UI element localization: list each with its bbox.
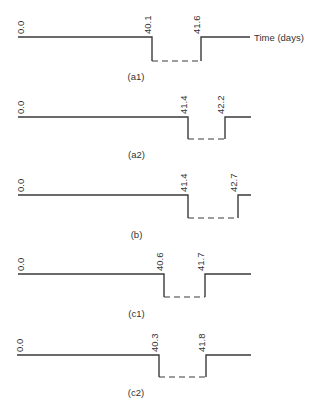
panel-c2: 0.040.341.8(c2) [14, 334, 251, 399]
drop-time-label: 41.4 [178, 174, 189, 193]
baseline-left-segment [18, 195, 188, 218]
panel-c1: 0.040.641.7(c1) [15, 253, 251, 320]
baseline-left-segment [18, 274, 164, 297]
baseline-left-segment [18, 117, 188, 139]
drop-time-label: 40.1 [142, 16, 153, 35]
panel-caption: (a1) [128, 71, 145, 82]
start-time-label: 0.0 [15, 179, 26, 192]
baseline-left-segment [18, 37, 152, 61]
panel-caption: (b) [131, 229, 143, 240]
baseline-right-segment [201, 37, 250, 61]
drop-time-label: 40.6 [154, 253, 165, 272]
panel-b: 0.041.442.7(b) [15, 174, 251, 241]
panel-caption: (a2) [128, 149, 145, 160]
panel-a2: 0.041.442.2(a2) [15, 96, 251, 161]
rise-time-label: 41.7 [195, 253, 206, 272]
baseline-right-segment [225, 117, 251, 139]
start-time-label: 0.0 [15, 258, 26, 271]
baseline-right-segment [206, 355, 251, 377]
rise-time-label: 42.2 [215, 96, 226, 115]
panel-caption: (c1) [128, 308, 144, 319]
rise-time-label: 41.8 [196, 334, 207, 353]
drop-time-label: 41.4 [178, 96, 189, 115]
panel-caption: (c2) [128, 387, 144, 398]
start-time-label: 0.0 [14, 339, 25, 352]
panel-a1: 0.040.141.6(a1)Time (days) [15, 16, 304, 83]
start-time-label: 0.0 [15, 101, 26, 114]
timeline-diagram: 0.040.141.6(a1)Time (days)0.041.442.2(a2… [0, 0, 321, 412]
baseline-right-segment [238, 195, 251, 218]
baseline-left-segment [17, 355, 159, 377]
rise-time-label: 41.6 [191, 16, 202, 35]
time-axis-label: Time (days) [254, 32, 304, 43]
rise-time-label: 42.7 [228, 174, 239, 193]
start-time-label: 0.0 [15, 21, 26, 34]
baseline-right-segment [205, 274, 251, 297]
drop-time-label: 40.3 [149, 334, 160, 353]
